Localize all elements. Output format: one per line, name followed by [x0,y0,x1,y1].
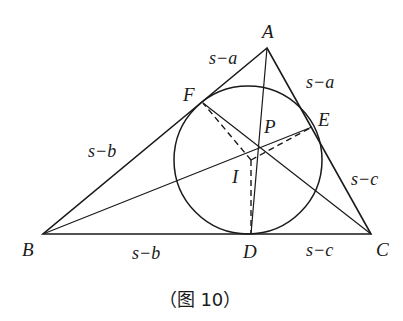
segment-label-ae: s−a [306,72,334,92]
radius-if [203,103,251,160]
cevian-ad [251,48,267,234]
segment-label-bf: s−b [88,141,116,161]
cevian-be [43,127,312,234]
figure-caption: （图 10） [159,289,242,310]
segment-label-af: s−a [209,48,237,68]
label-c: C [376,239,389,260]
label-a: A [260,21,274,42]
segment-label-cd: s−c [306,240,333,260]
incircle-diagram: A B C D E F P I s−a s−a s−b s−b s−c s−c … [0,0,403,321]
segment-label-ce: s−c [351,169,378,189]
incircle [174,86,322,234]
label-i: I [231,166,240,187]
cevian-cf [203,103,371,234]
label-b: B [22,239,34,260]
label-d: D [242,241,257,262]
label-e: E [317,109,330,130]
label-f: F [182,84,195,105]
label-p: P [263,116,276,137]
segment-label-bd: s−b [132,243,160,263]
